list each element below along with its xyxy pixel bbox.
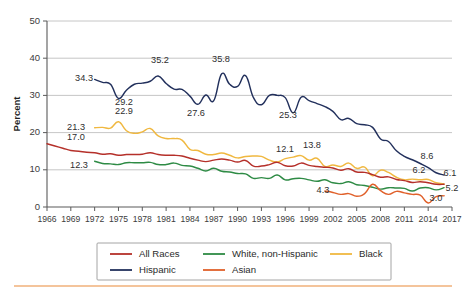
y-tick-label: 20 [29, 126, 40, 137]
y-tick-labels: 01020304050 [29, 15, 47, 212]
x-tick-label: 1972 [85, 214, 104, 224]
data-point-label: 25.3 [279, 110, 297, 120]
x-tick-label: 2008 [371, 214, 390, 224]
data-point-label: 21.3 [67, 122, 85, 132]
x-tick-label: 1987 [204, 214, 223, 224]
data-point-label: 35.8 [212, 54, 230, 64]
x-tick-label: 1978 [133, 214, 152, 224]
legend-label[interactable]: Black [359, 248, 383, 259]
series-lines [47, 73, 444, 203]
gridlines [47, 21, 452, 170]
y-tick-label: 0 [35, 201, 40, 212]
data-point-label: 35.2 [151, 55, 169, 65]
legend: All RacesWhite, non-HispanicBlackHispani… [97, 243, 391, 280]
x-tick-label: 1990 [228, 214, 247, 224]
y-tick-label: 30 [29, 89, 40, 100]
y-axis-title: Percent [11, 96, 22, 132]
x-tick-label: 1966 [37, 214, 56, 224]
chart-container: 01020304050 1966196919721975197819811984… [0, 0, 466, 292]
data-point-label: 3.0 [430, 193, 443, 203]
data-point-label: 6.2 [413, 165, 426, 175]
y-tick-label: 50 [29, 15, 40, 26]
data-point-label: 12.1 [276, 144, 294, 154]
x-tick-label: 1993 [252, 214, 271, 224]
x-tick-label: 2014 [419, 214, 438, 224]
x-tick-label: 1975 [109, 214, 128, 224]
x-tick-label: 1981 [157, 214, 176, 224]
x-tick-label: 2017 [442, 214, 461, 224]
data-point-label: 17.0 [67, 132, 85, 142]
data-point-label: 22.9 [115, 106, 133, 116]
x-tick-label: 1984 [180, 214, 199, 224]
data-point-label: 12.3 [70, 160, 88, 170]
x-tick-label: 1996 [276, 214, 295, 224]
x-tick-label: 2011 [395, 214, 414, 224]
legend-label[interactable]: All Races [139, 248, 180, 259]
data-point-label: 34.3 [75, 73, 93, 83]
line-chart: 01020304050 1966196919721975197819811984… [0, 0, 466, 292]
x-tick-labels: 1966196919721975197819811984198719901993… [37, 207, 461, 224]
x-tick-label: 1999 [299, 214, 318, 224]
legend-label[interactable]: Asian [232, 264, 256, 275]
data-point-label: 6.1 [444, 168, 457, 178]
data-point-label: 8.6 [421, 151, 434, 161]
series-line-white-non-hispanic [95, 161, 444, 191]
y-tick-label: 10 [29, 163, 40, 174]
x-tick-label: 1969 [61, 214, 80, 224]
data-point-label: 4.3 [317, 185, 330, 195]
data-point-label: 5.2 [446, 183, 459, 193]
x-tick-label: 2002 [323, 214, 342, 224]
data-point-label: 27.6 [187, 108, 205, 118]
x-tick-label: 2005 [347, 214, 366, 224]
data-point-label: 13.8 [303, 140, 321, 150]
legend-label[interactable]: Hispanic [139, 264, 176, 275]
legend-label[interactable]: White, non-Hispanic [232, 248, 318, 259]
y-tick-label: 40 [29, 52, 40, 63]
